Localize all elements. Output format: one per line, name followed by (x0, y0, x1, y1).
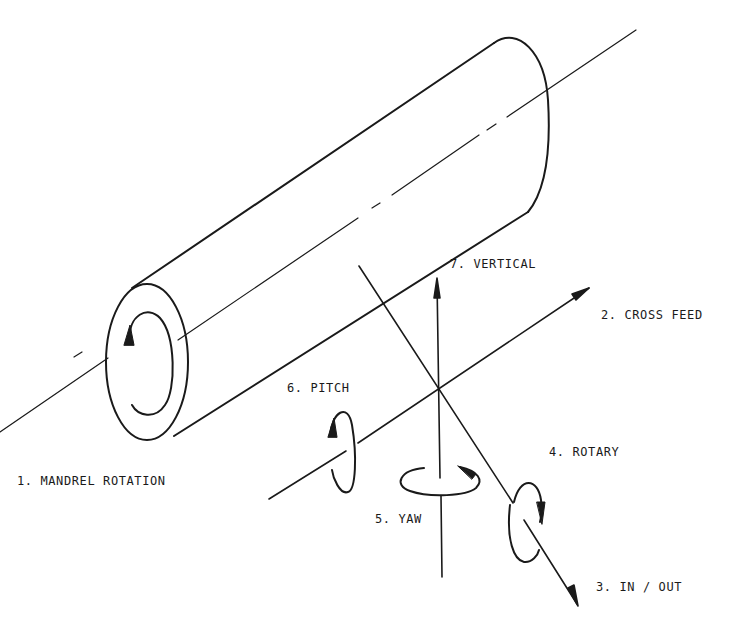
axes-diagram: 1. MANDREL ROTATION 2. CROSS FEED 3. IN … (0, 0, 743, 631)
mandrel-center-axis (0, 30, 636, 432)
axis-dash-inner (74, 352, 82, 357)
in-out-arrowhead-icon (568, 585, 578, 606)
label-pitch: 6. PITCH (287, 381, 350, 396)
pitch-rotation-arrow-icon (328, 412, 355, 492)
label-cross-feed: 2. CROSS FEED (601, 308, 703, 323)
label-mandrel-rotation: 1. MANDREL ROTATION (17, 474, 166, 489)
label-rotary: 4. ROTARY (549, 445, 619, 460)
label-vertical: 7. VERTICAL (450, 257, 536, 272)
mandrel-rotation-arrow-icon (124, 312, 173, 415)
vertical-axis (434, 278, 442, 577)
label-in-out: 3. IN / OUT (596, 580, 682, 595)
rotary-rotation-arrow-icon (509, 483, 545, 562)
label-yaw: 5. YAW (375, 512, 422, 527)
cross-feed-arrowhead-icon (572, 288, 589, 300)
vertical-arrowhead-icon (434, 278, 440, 298)
